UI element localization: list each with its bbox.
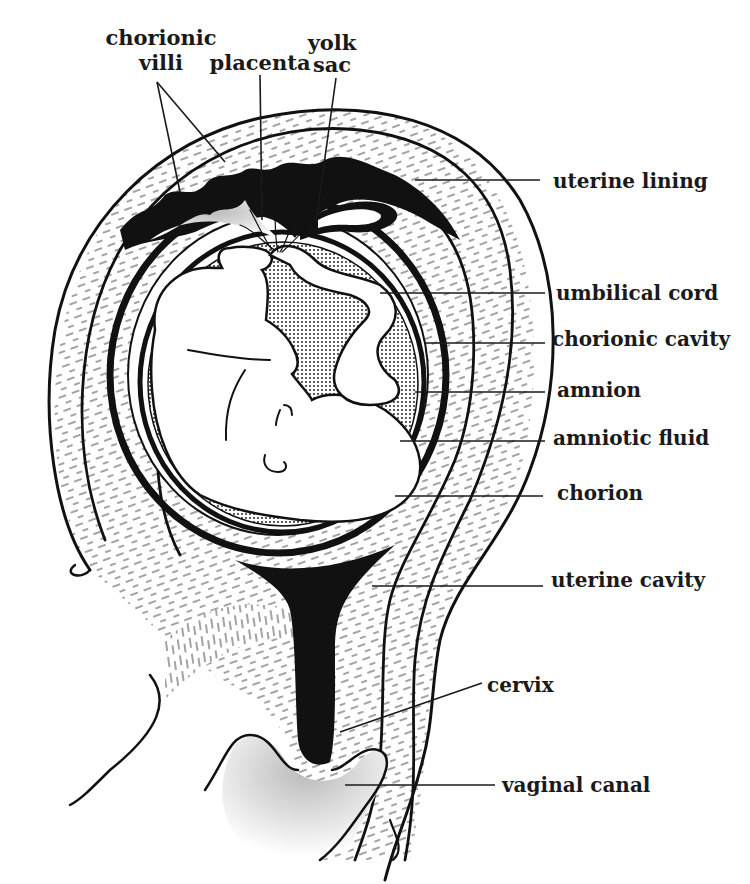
label-cervix: cervix <box>487 673 555 697</box>
label-vaginal-canal: vaginal canal <box>501 773 651 797</box>
top-labels: chorionic villi placenta yolk sac <box>105 25 356 77</box>
label-amnion: amnion <box>557 378 642 402</box>
label-chorion: chorion <box>557 481 644 505</box>
label-uterine-cavity: uterine cavity <box>551 568 706 592</box>
label-uterine-lining: uterine lining <box>553 169 708 193</box>
label-chorionic-cavity: chorionic cavity <box>552 327 731 351</box>
label-umbilical-cord: umbilical cord <box>556 281 718 305</box>
label-placenta: placenta <box>210 50 311 75</box>
label-amniotic-fluid: amniotic fluid <box>553 426 709 450</box>
label-chorionic-villi-line1: chorionic <box>105 25 216 50</box>
uterus-embryo-diagram: chorionic villi placenta yolk sac uterin… <box>0 0 750 884</box>
label-chorionic-villi-line2: villi <box>138 50 183 75</box>
label-yolk-sac-line2: sac <box>313 52 351 77</box>
